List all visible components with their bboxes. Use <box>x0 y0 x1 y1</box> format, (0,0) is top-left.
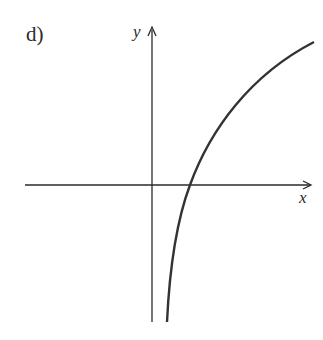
log-curve <box>167 42 314 322</box>
x-axis-label: x <box>299 188 307 208</box>
y-axis <box>148 27 156 322</box>
plot-area <box>0 0 323 340</box>
graph-figure: d) y x <box>0 0 323 340</box>
x-axis <box>25 181 311 189</box>
y-axis-label: y <box>133 22 141 42</box>
panel-label: d) <box>26 22 44 47</box>
